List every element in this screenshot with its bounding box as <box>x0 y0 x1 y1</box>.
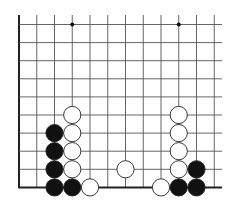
star-point <box>177 23 181 27</box>
black-stone <box>46 179 63 196</box>
white-stone <box>64 125 81 142</box>
black-stone <box>188 179 205 196</box>
black-stone <box>46 161 63 178</box>
go-board <box>0 0 234 211</box>
white-stone <box>152 179 169 196</box>
star-point <box>70 23 74 27</box>
black-stone <box>46 143 63 160</box>
white-stone <box>64 143 81 160</box>
black-stone <box>46 125 63 142</box>
white-stone <box>117 161 134 178</box>
white-stone <box>170 143 187 160</box>
white-stone <box>81 179 98 196</box>
black-stone <box>188 161 205 178</box>
white-stone <box>64 106 81 123</box>
black-stone <box>64 179 81 196</box>
white-stone <box>170 106 187 123</box>
white-stone <box>64 161 81 178</box>
white-stone <box>170 161 187 178</box>
black-stone <box>170 179 187 196</box>
white-stone <box>170 125 187 142</box>
